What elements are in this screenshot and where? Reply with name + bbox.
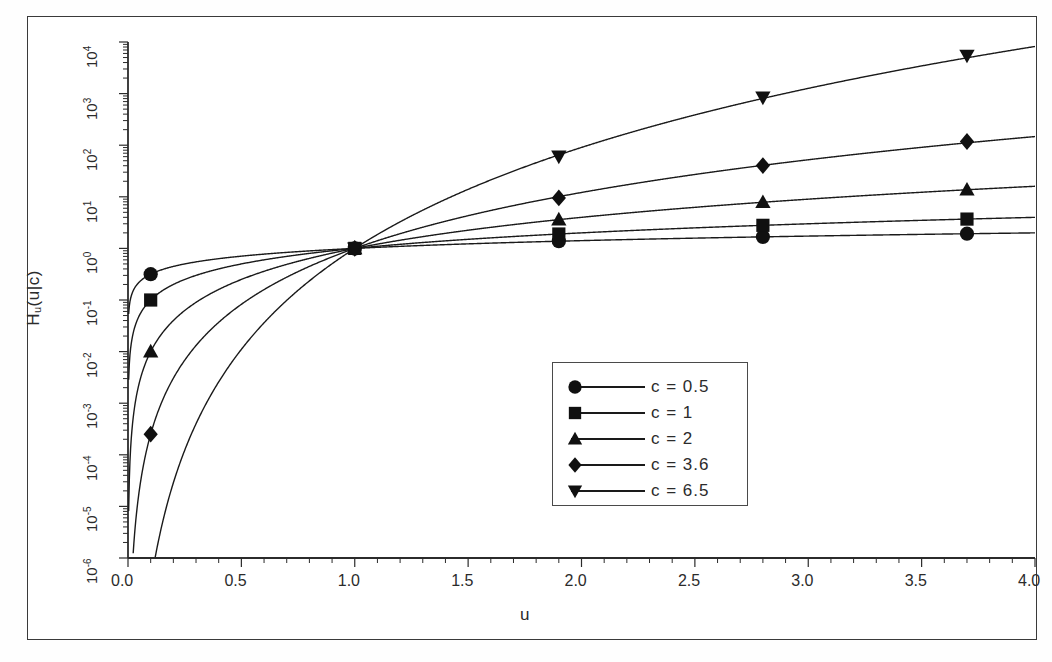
legend-item[interactable]: c = 0.5 [553, 374, 749, 400]
legend-label: c = 0.5 [651, 377, 710, 397]
marker-circle [960, 227, 974, 241]
legend-marker-diamond [567, 457, 583, 473]
series-line-circle [129, 233, 1035, 314]
legend-label: c = 1 [651, 403, 693, 423]
legend-symbol [565, 402, 651, 424]
legend-marker-square [567, 405, 583, 421]
legend-item[interactable]: c = 6.5 [553, 478, 749, 504]
legend-symbol [565, 480, 651, 502]
marker-square [569, 407, 581, 419]
marker-square [144, 293, 157, 306]
marker-triangle-up [959, 182, 974, 196]
marker-square [552, 227, 565, 240]
legend-marker-circle [567, 379, 583, 395]
legend-label: c = 6.5 [651, 481, 710, 501]
marker-diamond [960, 133, 974, 150]
plot-area [0, 0, 1052, 662]
legend-item[interactable]: c = 2 [553, 426, 749, 452]
legend-marker-triangle-down [567, 483, 583, 499]
marker-diamond [552, 190, 566, 207]
legend: c = 0.5c = 1c = 2c = 3.6c = 6.5 [552, 362, 748, 506]
legend-symbol [565, 428, 651, 450]
marker-triangle-down [568, 486, 582, 499]
marker-triangle-down [755, 91, 770, 105]
marker-diamond [756, 157, 770, 174]
marker-square [960, 212, 973, 225]
legend-symbol [565, 376, 651, 398]
marker-triangle-up [568, 432, 582, 445]
legend-marker-triangle-up [567, 431, 583, 447]
legend-item[interactable]: c = 1 [553, 400, 749, 426]
legend-symbol [565, 454, 651, 476]
marker-circle [144, 267, 158, 281]
series-line-square [129, 217, 1035, 379]
marker-square [756, 219, 769, 232]
marker-circle [568, 380, 581, 393]
marker-diamond [568, 457, 581, 473]
legend-item[interactable]: c = 3.6 [553, 452, 749, 478]
legend-label: c = 3.6 [651, 455, 710, 475]
marker-triangle-up [143, 344, 158, 358]
chart-figure: Hu(u|c) u 10-610-510-410-310-210-1100101… [0, 0, 1052, 662]
legend-label: c = 2 [651, 429, 693, 449]
marker-diamond [144, 426, 158, 443]
